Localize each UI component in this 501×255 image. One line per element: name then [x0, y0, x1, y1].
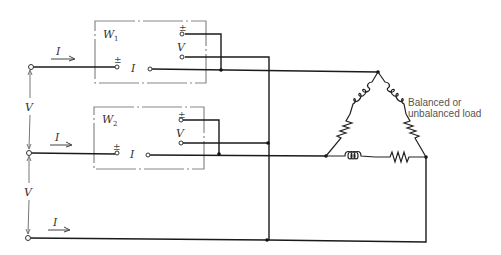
line-1-output-wire [152, 69, 378, 72]
inductor-icon [326, 152, 375, 160]
wattmeter-2-current-polarity: ± [113, 142, 121, 152]
line-3-current-label: I [52, 216, 58, 229]
line-3-terminal [26, 236, 31, 241]
line-3-wire [29, 157, 426, 242]
line-2-output-wire [150, 155, 326, 156]
wattmeter-2-subscript: 2 [113, 120, 117, 128]
wattmeter-1-voltage-pm-wire [185, 34, 221, 70]
junction-dot [217, 152, 221, 156]
line-2-input-wire [31, 153, 115, 154]
inductor-icon [378, 72, 406, 114]
resistor-icon [326, 114, 352, 156]
line-voltage-label-2: V [24, 186, 33, 199]
wattmeter-1-current-polarity: ± [114, 55, 122, 65]
inductor-icon [350, 72, 378, 114]
line-voltage-label-1: V [25, 101, 34, 114]
wattmeter-1-voltage-label: V [177, 41, 186, 54]
resistor-icon [375, 152, 426, 162]
w1-voltage-terminal [180, 55, 184, 59]
wattmeter-1-subscript: 1 [114, 35, 118, 43]
w2-voltage-pm-terminal [179, 118, 183, 122]
resistor-icon [404, 114, 426, 157]
line-1-terminal [29, 65, 34, 70]
wattmeter-2-current-label: I [129, 148, 135, 161]
current-arrow-icon [51, 56, 75, 61]
current-arrow-icon [50, 142, 72, 147]
w2-current-in-terminal [115, 151, 119, 155]
two-wattmeter-circuit-diagram: W 1 ± I ± V W 2 ± I ± V I I [0, 0, 501, 255]
w1-voltage-pm-terminal [180, 32, 184, 36]
junction-dot [266, 141, 270, 145]
line-1-current-label: I [55, 45, 61, 58]
wattmeter-2-voltage-label: V [176, 127, 185, 140]
load-label-line-2: unbalanced load [408, 108, 481, 119]
line-2-current-label: I [54, 131, 60, 144]
w1-current-out-terminal [148, 67, 152, 71]
current-arrow-icon [48, 227, 70, 232]
w2-current-out-terminal [146, 153, 150, 157]
junction-dot [219, 68, 223, 72]
w2-voltage-terminal [179, 141, 183, 145]
w1-current-in-terminal [115, 65, 119, 69]
load-label-line-1: Balanced or [408, 97, 462, 108]
wattmeter-2-voltage-pm-wire [183, 120, 219, 154]
junction-dot [265, 238, 269, 242]
wattmeter-1-voltage-polarity: ± [179, 23, 187, 33]
wattmeter-1-current-label: I [130, 62, 136, 75]
wattmeter-1-voltage-wire [185, 57, 269, 240]
